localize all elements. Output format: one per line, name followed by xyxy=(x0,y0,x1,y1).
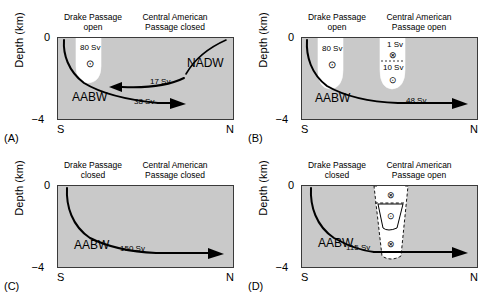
drake-passage-lobe-symbol: ⊙ xyxy=(86,58,94,69)
panel-c: Depth (km) 0 −4 Drake Passage closed Cen… xyxy=(0,148,244,296)
x-tick-south: S xyxy=(301,123,308,135)
header-cap-line1: Central American xyxy=(376,160,462,170)
panel-d: Depth (km) 0 −4 Drake Passage closed Cen… xyxy=(244,148,488,296)
header-drake-passage: Drake Passage open xyxy=(50,12,136,32)
nadw-flow-arrowhead xyxy=(109,82,122,92)
central-american-cell-bottom-symbol: ⊗ xyxy=(387,239,395,249)
nadw-flow-value: 17 Sv xyxy=(150,77,170,86)
aabw-flow-value: 48 Sv xyxy=(406,96,426,105)
panel-letter-c: (C) xyxy=(4,280,19,292)
y-tick-0: 0 xyxy=(272,179,294,191)
central-american-lower-symbol: ⊙ xyxy=(389,75,397,85)
y-tick-0: 0 xyxy=(28,31,50,43)
y-tick-minus4: −4 xyxy=(22,113,44,125)
plot-area-c: AABW 150 Sv xyxy=(57,185,234,268)
central-american-lower-value: 10 Sv xyxy=(383,63,403,72)
header-drake-passage: Drake Passage closed xyxy=(294,160,380,180)
y-tick-0: 0 xyxy=(272,31,294,43)
aabw-flow-arrowhead xyxy=(208,248,224,259)
y-axis-label: Depth (km) xyxy=(257,143,269,233)
drake-passage-lobe-value: 80 Sv xyxy=(80,43,100,52)
header-drake-line1: Drake Passage xyxy=(50,12,136,22)
panel-letter-d: (D) xyxy=(248,280,263,292)
x-tick-north: N xyxy=(226,123,234,135)
header-cap-line1: Central American xyxy=(376,12,462,22)
header-cap-line2: Passage closed xyxy=(132,22,218,32)
header-cap-line1: Central American xyxy=(132,12,218,22)
header-drake-line2: open xyxy=(50,22,136,32)
header-central-american-passage: Central American Passage open xyxy=(376,160,462,180)
header-drake-line2: closed xyxy=(294,170,380,180)
drake-passage-lobe-symbol: ⊙ xyxy=(328,59,336,70)
water-mass-aabw-label: AABW xyxy=(74,238,109,252)
drake-passage-lobe-value: 80 Sv xyxy=(322,44,342,53)
header-drake-line1: Drake Passage xyxy=(294,12,380,22)
y-axis-label: Depth (km) xyxy=(257,0,269,85)
aabw-flow-arrowhead xyxy=(452,98,468,109)
header-central-american-passage: Central American Passage open xyxy=(376,12,462,32)
central-american-cell-top-symbol: ⊗ xyxy=(387,190,395,200)
header-cap-line2: Passage open xyxy=(376,170,462,180)
header-drake-line2: open xyxy=(294,22,380,32)
aabw-flow-value: 38 Sv xyxy=(134,97,154,106)
aabw-flow-arrowhead xyxy=(452,247,468,258)
header-drake-line2: closed xyxy=(50,170,136,180)
y-axis-label: Depth (km) xyxy=(13,143,25,233)
water-mass-nadw-label: NADW xyxy=(187,56,224,70)
central-american-cell-middle-symbol: ⊙ xyxy=(387,211,395,221)
aabw-flow-arrowhead xyxy=(170,98,186,109)
x-tick-north: N xyxy=(470,123,478,135)
plot-svg-c xyxy=(58,186,234,268)
plot-area-a: 80 Sv ⊙ AABW NADW 17 Sv 38 Sv xyxy=(57,37,234,120)
plot-area-b: 80 Sv ⊙ 1 Sv ⊗ 10 Sv ⊙ AABW 48 Sv xyxy=(301,37,478,120)
y-axis-label: Depth (km) xyxy=(13,0,25,85)
y-tick-minus4: −4 xyxy=(266,261,288,273)
aabw-flow-value: 115 Sv xyxy=(346,243,370,252)
central-american-upper-value: 1 Sv xyxy=(387,40,403,49)
x-tick-north: N xyxy=(470,271,478,283)
header-central-american-passage: Central American Passage closed xyxy=(132,160,218,180)
x-tick-south: S xyxy=(57,271,64,283)
x-tick-south: S xyxy=(301,271,308,283)
ocean-circulation-figure: Depth (km) 0 −4 Drake Passage open Centr… xyxy=(0,0,488,296)
water-mass-aabw-label: AABW xyxy=(72,90,107,104)
header-cap-line1: Central American xyxy=(132,160,218,170)
central-american-upper-symbol: ⊗ xyxy=(389,50,397,60)
x-tick-south: S xyxy=(57,123,64,135)
header-drake-line1: Drake Passage xyxy=(294,160,380,170)
header-drake-passage: Drake Passage closed xyxy=(50,160,136,180)
header-drake-line1: Drake Passage xyxy=(50,160,136,170)
y-tick-minus4: −4 xyxy=(22,261,44,273)
header-cap-line2: Passage open xyxy=(376,22,462,32)
panel-a: Depth (km) 0 −4 Drake Passage open Centr… xyxy=(0,0,244,148)
y-tick-0: 0 xyxy=(28,179,50,191)
panel-b: Depth (km) 0 −4 Drake Passage open Centr… xyxy=(244,0,488,148)
water-mass-aabw-label: AABW xyxy=(315,91,350,105)
y-tick-minus4: −4 xyxy=(266,113,288,125)
aabw-flow-value: 150 Sv xyxy=(120,244,145,253)
plot-area-d: ⊗ ⊙ ⊗ AABW 115 Sv xyxy=(301,185,478,268)
header-drake-passage: Drake Passage open xyxy=(294,12,380,32)
x-tick-north: N xyxy=(226,271,234,283)
header-cap-line2: Passage closed xyxy=(132,170,218,180)
header-central-american-passage: Central American Passage closed xyxy=(132,12,218,32)
